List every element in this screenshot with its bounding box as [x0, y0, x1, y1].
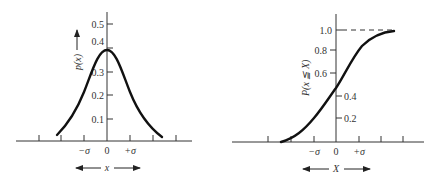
y-tick-label: 0.4 — [344, 91, 357, 102]
y-ticks — [107, 24, 113, 119]
y-tick-label: 1.0 — [320, 25, 333, 36]
y-tick-label: 0.2 — [92, 90, 105, 101]
figure: 0.5 0.4 0.3 0.2 0.1 −σ 0 +σ p(x) x — [0, 0, 438, 184]
cdf-curve — [281, 31, 394, 142]
y-tick-label: 0.6 — [315, 68, 328, 79]
x-tick-label-neg-sigma: −σ — [308, 146, 321, 157]
x-tick-label-zero: 0 — [334, 146, 339, 157]
pdf-chart: 0.5 0.4 0.3 0.2 0.1 −σ 0 +σ p(x) x — [16, 12, 192, 173]
y-axis-label: p(x) — [72, 53, 84, 71]
x-axis-label: x — [104, 162, 110, 173]
x-tick-label-neg-sigma: −σ — [78, 145, 91, 156]
cdf-chart: 1.0 0.8 0.6 0.4 0.2 −σ 0 +σ P(x ≦ X) X — [232, 14, 424, 174]
x-axis-label: X — [332, 163, 340, 174]
y-axis-label: P(x ≦ X) — [300, 59, 312, 97]
y-tick-label: 0.1 — [92, 114, 105, 125]
y-tick-label: 0.4 — [92, 36, 105, 47]
y-tick-label: 0.2 — [344, 113, 357, 124]
x-tick-label-pos-sigma: +σ — [124, 145, 137, 156]
x-tick-label-pos-sigma: +σ — [353, 146, 366, 157]
x-tick-label-zero: 0 — [105, 145, 110, 156]
y-tick-label: 0.5 — [92, 19, 105, 30]
y-tick-label: 0.8 — [315, 45, 328, 56]
